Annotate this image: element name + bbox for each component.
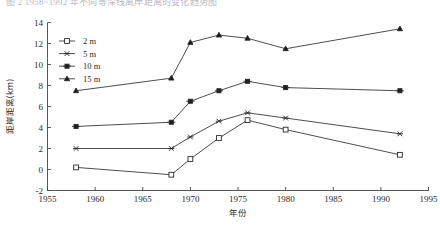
data-point-marker-filled-triangle bbox=[397, 26, 402, 31]
legend-item-10m[interactable]: 10 m bbox=[59, 61, 101, 71]
data-point-marker-filled-square bbox=[396, 89, 404, 93]
series-2m bbox=[74, 118, 403, 177]
data-point-marker-open-square bbox=[74, 165, 79, 170]
chart-legend: 2 m5 m10 m15 m bbox=[59, 36, 101, 84]
data-point-marker-open-square bbox=[245, 118, 250, 123]
legend-item-5m[interactable]: 5 m bbox=[59, 49, 96, 59]
series-10m bbox=[72, 79, 404, 128]
figure-caption-truncated: 图 2 1958~1992 年不同等深线离岸距离的变化趋势图 bbox=[0, 0, 440, 9]
data-point-marker-filled-square bbox=[167, 120, 175, 124]
data-point-marker-x-cross bbox=[397, 131, 403, 136]
y-tick-label: 8 bbox=[39, 81, 44, 91]
legend-label: 5 m bbox=[83, 49, 96, 59]
x-tick-label: 1995 bbox=[420, 194, 439, 204]
figure-panel: 图 2 1958~1992 年不同等深线离岸距离的变化趋势图 -20246810… bbox=[0, 0, 440, 232]
legend-item-2m[interactable]: 2 m bbox=[59, 36, 96, 46]
line-chart: -202468101214195519601965197019751980198… bbox=[0, 0, 440, 232]
y-tick-label: 4 bbox=[39, 123, 44, 133]
y-tick-label: 0 bbox=[39, 165, 44, 175]
data-point-marker-open-square bbox=[188, 157, 193, 162]
y-tick-label: 6 bbox=[39, 102, 44, 112]
data-point-marker-filled-square bbox=[63, 64, 71, 68]
data-point-marker-x-cross bbox=[244, 110, 250, 115]
x-axis-title: 年份 bbox=[229, 208, 247, 218]
x-tick-label: 1975 bbox=[229, 194, 248, 204]
x-tick-label: 1990 bbox=[372, 194, 391, 204]
data-point-marker-filled-square bbox=[282, 86, 290, 90]
data-point-marker-x-cross bbox=[73, 146, 79, 151]
data-point-marker-open-square bbox=[65, 39, 70, 44]
x-tick-label: 1955 bbox=[39, 194, 58, 204]
data-point-marker-filled-square bbox=[72, 124, 80, 128]
data-point-marker-x-cross bbox=[64, 51, 70, 56]
data-point-marker-open-square bbox=[217, 136, 222, 141]
legend-item-15m[interactable]: 15 m bbox=[59, 74, 101, 84]
data-point-marker-open-square bbox=[169, 172, 174, 177]
data-point-marker-filled-square bbox=[243, 79, 251, 83]
x-tick-label: 1985 bbox=[324, 194, 343, 204]
y-axis-title: 距岸距离(km) bbox=[5, 79, 15, 135]
data-point-marker-x-cross bbox=[187, 135, 193, 140]
y-tick-label: 2 bbox=[39, 144, 44, 154]
data-point-marker-open-square bbox=[283, 127, 288, 132]
legend-label: 15 m bbox=[83, 74, 101, 84]
y-tick-label: 12 bbox=[34, 39, 43, 49]
data-point-marker-filled-triangle bbox=[169, 75, 174, 80]
y-tick-label: 14 bbox=[34, 18, 44, 28]
figure-caption-text: 图 2 1958~1992 年不同等深线离岸距离的变化趋势图 bbox=[0, 0, 440, 8]
x-tick-label: 1970 bbox=[181, 194, 200, 204]
data-point-marker-x-cross bbox=[216, 119, 222, 124]
data-point-marker-open-square bbox=[398, 152, 403, 157]
data-point-marker-x-cross bbox=[168, 146, 174, 151]
data-point-marker-filled-triangle bbox=[216, 32, 221, 37]
series-15m bbox=[73, 26, 402, 93]
legend-label: 10 m bbox=[83, 61, 101, 71]
data-point-marker-x-cross bbox=[283, 116, 289, 121]
y-tick-label: 10 bbox=[34, 60, 44, 70]
chart-series-group bbox=[72, 26, 404, 177]
x-tick-label: 1965 bbox=[134, 194, 153, 204]
x-tick-label: 1960 bbox=[86, 194, 105, 204]
legend-label: 2 m bbox=[83, 36, 96, 46]
x-tick-label: 1980 bbox=[277, 194, 296, 204]
